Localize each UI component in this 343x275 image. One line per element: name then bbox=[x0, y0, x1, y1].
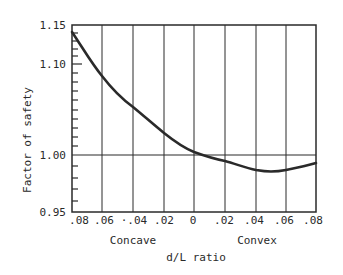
convex-label: Convex bbox=[237, 234, 277, 247]
x-axis-title: d/L ratio bbox=[166, 251, 226, 264]
x-tick-label: .08 bbox=[69, 214, 89, 227]
x-tick-label: .04 bbox=[244, 214, 264, 227]
concave-label: Concave bbox=[110, 234, 156, 247]
x-tick-label: 0 bbox=[190, 214, 197, 227]
y-tick-label: 0.95 bbox=[40, 206, 67, 219]
x-tick-label: .02 bbox=[214, 214, 234, 227]
y-axis-title: Factor of safety bbox=[21, 87, 34, 193]
x-tick-label: ·.04 bbox=[121, 214, 148, 227]
y-tick-label: 1.10 bbox=[40, 58, 67, 71]
y-tick-label: 1.00 bbox=[40, 149, 67, 162]
y-axis-ticks bbox=[72, 33, 82, 201]
chart: 1.15 1.10 1.00 0.95 .08 .06 ·.04 .02 0 .… bbox=[0, 0, 343, 275]
x-tick-label: .06 bbox=[274, 214, 294, 227]
vertical-gridlines bbox=[102, 25, 286, 212]
x-tick-label: .08 bbox=[303, 214, 323, 227]
x-tick-label: .06 bbox=[94, 214, 114, 227]
x-tick-label: .02 bbox=[154, 214, 174, 227]
y-tick-label: 1.15 bbox=[40, 19, 67, 32]
